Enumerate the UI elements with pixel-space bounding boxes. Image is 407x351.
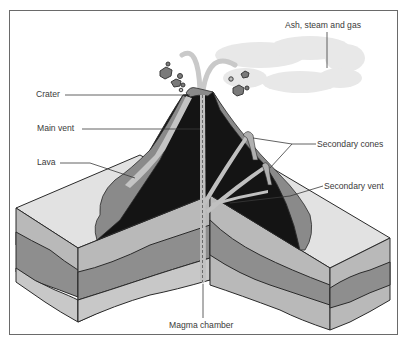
label-main-vent: Main vent bbox=[37, 123, 74, 133]
label-secondary-cones: Secondary cones bbox=[317, 139, 383, 149]
ash-cloud bbox=[215, 36, 365, 93]
label-crater: Crater bbox=[36, 89, 60, 99]
label-secondary-vent: Secondary vent bbox=[324, 181, 384, 191]
label-lava: Lava bbox=[37, 157, 56, 167]
label-ash-steam-gas: Ash, steam and gas bbox=[285, 20, 361, 30]
volcano-diagram bbox=[0, 0, 407, 351]
label-magma-chamber: Magma chamber bbox=[169, 320, 233, 330]
